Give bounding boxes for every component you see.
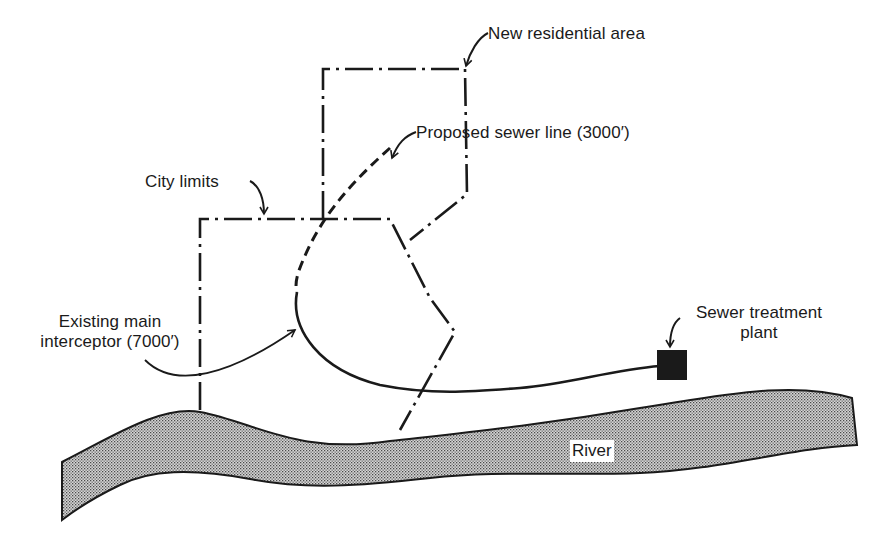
label-river: River	[570, 440, 614, 462]
new-residential-area-leader-arrow	[466, 33, 488, 66]
new-residential-area-boundary	[323, 69, 467, 240]
label-proposed-sewer-line: Proposed sewer line (3000′)	[416, 123, 630, 143]
label-sewer-treatment-plant-line2: plant	[684, 323, 834, 343]
proposed-sewer-line-leader-arrow	[392, 132, 416, 158]
river-shape	[62, 390, 857, 520]
existing-main-interceptor	[296, 292, 660, 392]
label-existing-main-interceptor: Existing main interceptor (7000′)	[20, 312, 200, 352]
city-limits-boundary	[200, 219, 455, 430]
sewer-treatment-plant-icon	[657, 350, 687, 380]
label-sewer-treatment-plant: Sewer treatment plant	[684, 303, 834, 343]
label-existing-main-interceptor-line1: Existing main	[20, 312, 200, 332]
label-sewer-treatment-plant-line1: Sewer treatment	[684, 303, 834, 323]
sewer-treatment-plant-leader-arrow	[670, 318, 680, 347]
city-limits-leader-arrow	[250, 181, 264, 214]
label-new-residential-area: New residential area	[488, 24, 645, 44]
label-existing-main-interceptor-line2: interceptor (7000′)	[20, 332, 200, 352]
label-city-limits: City limits	[145, 172, 219, 192]
sewer-system-diagram	[0, 0, 871, 541]
